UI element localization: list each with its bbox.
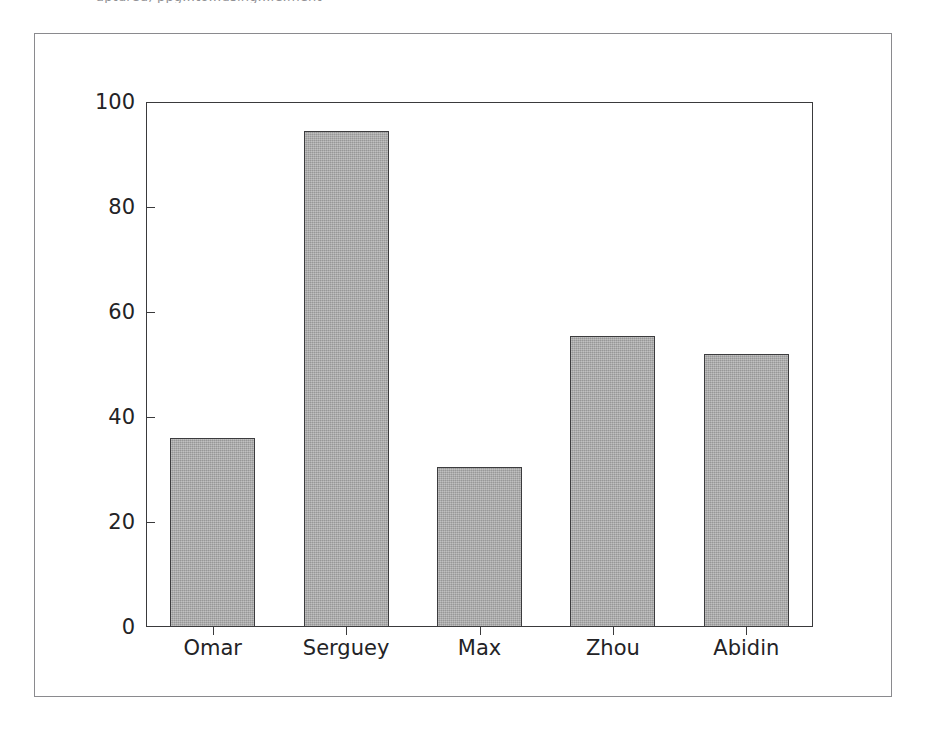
- x-tick-mark: [613, 627, 614, 635]
- x-tick-mark: [480, 627, 481, 635]
- y-tick-label: 60: [108, 302, 135, 323]
- figure-frame: 020406080100 OmarSergueyMaxZhouAbidin: [34, 33, 892, 697]
- bar-serguey: [304, 131, 389, 627]
- y-tick-label: 40: [108, 407, 135, 428]
- x-tick-mark: [346, 627, 347, 635]
- bar-chart: 020406080100 OmarSergueyMaxZhouAbidin: [35, 34, 893, 698]
- x-tick-label-max: Max: [458, 636, 501, 660]
- x-tick-mark: [213, 627, 214, 635]
- bar-zhou: [570, 336, 655, 627]
- y-tick-label: 100: [95, 92, 135, 113]
- bar-omar: [170, 438, 255, 627]
- clipped-header-text: aptured, ppg...to...using...le.ment: [0, 0, 933, 3]
- x-tick-mark: [746, 627, 747, 635]
- bar-max: [437, 467, 522, 627]
- bar-abidin: [704, 354, 789, 627]
- x-tick-label-omar: Omar: [183, 636, 242, 660]
- y-tick-label: 0: [122, 617, 135, 638]
- x-tick-label-serguey: Serguey: [303, 636, 390, 660]
- bars-layer: [146, 102, 813, 627]
- y-tick-label: 20: [108, 512, 135, 533]
- x-tick-label-zhou: Zhou: [586, 636, 640, 660]
- x-tick-label-abidin: Abidin: [713, 636, 779, 660]
- y-tick-label: 80: [108, 197, 135, 218]
- y-axis-tick-labels: 020406080100: [79, 102, 135, 627]
